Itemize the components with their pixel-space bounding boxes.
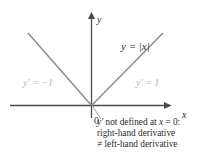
caption-block: y′ not defined at x = 0: right-hand deri… — [97, 117, 199, 151]
caption-line-1-end: = 0: — [163, 117, 180, 127]
caption-line-2-text: right-hand derivative — [97, 128, 175, 138]
equation-text: y = |x| — [121, 40, 150, 52]
caption-line-2: right-hand derivative — [97, 128, 199, 139]
slope-label-left-text: y′ = −1 — [23, 77, 53, 88]
equation-label: y = |x| — [110, 30, 150, 63]
slope-label-right: y′ = 1 — [126, 68, 159, 98]
caption-line-1: y′ not defined at x = 0: — [97, 117, 199, 128]
caption-line-3-text: left-hand derivative — [102, 139, 177, 149]
x-axis-arrowhead — [164, 102, 172, 109]
absolute-value-derivative-figure: y = |x| y′ = −1 y′ = 1 y x 0 y′ not defi… — [0, 0, 199, 159]
slope-label-right-text: y′ = 1 — [136, 77, 159, 88]
y-axis-label: y — [87, 5, 101, 35]
caption-line-3: ≠ left-hand derivative — [97, 139, 199, 150]
slope-label-left: y′ = −1 — [13, 68, 53, 98]
caption-line-1-mid: not defined at — [103, 117, 159, 127]
y-axis-label-text: y — [97, 14, 101, 25]
